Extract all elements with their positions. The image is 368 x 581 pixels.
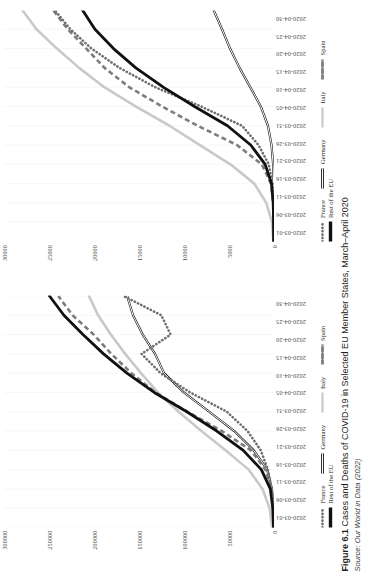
x-tick-label: 2020-04-15 [276, 69, 306, 76]
x-tick-label: 2020-03-06 [276, 497, 306, 504]
legend-swatch-icon [319, 453, 326, 473]
x-tick-label: 2020-04-05 [276, 390, 306, 397]
x-tick: 2020-03-16 [274, 170, 318, 188]
legend-label: Germany [319, 425, 326, 450]
chart-deaths-body: 050001000015000200002500030000 [4, 10, 274, 286]
x-tick-label: 2020-03-26 [276, 426, 306, 433]
x-tick-label: 2020-03-01 [276, 229, 306, 236]
legend-item-spain[interactable]: Spain [319, 40, 326, 79]
x-tick-label: 2020-03-31 [276, 122, 306, 129]
legend-swatch-icon [319, 222, 326, 242]
x-tick: 2020-03-21 [274, 152, 318, 170]
series-line [127, 296, 274, 528]
legend-item-germany[interactable]: Germany [319, 139, 326, 188]
x-tick: 2020-03-26 [274, 420, 318, 438]
x-tick-label: 2020-03-21 [276, 443, 306, 450]
legend-item-spain[interactable]: Spain [319, 325, 326, 364]
series-line [50, 296, 274, 528]
series-line [55, 10, 274, 242]
chart-deaths-y-axis: 050001000015000200002500030000 [4, 242, 274, 286]
legend-label: France [319, 485, 326, 503]
figure-number: Figure 6.1 [340, 528, 350, 571]
legend-swatch-icon [319, 168, 326, 188]
legend-label: France [319, 200, 326, 218]
x-tick-label: 2020-03-26 [276, 140, 306, 147]
rotated-figure-page: 050000100000150000200000250000300000 202… [0, 0, 368, 581]
legend-label: Rest of the EU [327, 178, 334, 217]
x-tick-label: 2020-04-10 [276, 87, 306, 94]
x-tick-label: 2020-04-15 [276, 354, 306, 361]
plot-svg [4, 296, 274, 528]
x-tick: 2020-03-11 [274, 474, 318, 492]
legend-swatch-icon [327, 507, 334, 527]
legend-item-italy[interactable]: Italy [319, 376, 326, 412]
x-tick-label: 2020-03-11 [276, 479, 306, 486]
y-tick-label: 50000 [225, 530, 232, 546]
chart-deaths-canvas [4, 10, 274, 242]
x-tick: 2020-04-20 [274, 331, 318, 349]
x-tick-label: 2020-03-31 [276, 408, 306, 415]
legend-item-rest-of-the-eu[interactable]: Rest of the EU [327, 178, 334, 241]
x-tick-label: 2020-03-06 [276, 211, 306, 218]
figure-caption: Figure 6.1 Cases and Deaths of COVID-19 … [334, 10, 362, 571]
x-tick: 2020-04-20 [274, 46, 318, 64]
x-tick-label: 2020-03-16 [276, 461, 306, 468]
x-tick-label: 2020-04-20 [276, 336, 306, 343]
legend-label: Spain [319, 325, 326, 340]
legend-item-france[interactable]: France [319, 200, 326, 242]
x-tick-label: 2020-04-30 [276, 301, 306, 308]
x-tick: 2020-04-10 [274, 81, 318, 99]
y-tick-label: 200000 [90, 530, 97, 549]
x-tick: 2020-04-05 [274, 99, 318, 117]
chart-deaths-legend: FranceGermanyItalySpainRest of the EU [318, 10, 334, 242]
legend-label: Italy [319, 376, 326, 388]
series-line [58, 296, 273, 528]
x-tick: 2020-03-21 [274, 438, 318, 456]
x-tick: 2020-04-10 [274, 367, 318, 385]
y-tick-label: 150000 [135, 530, 142, 549]
x-tick-label: 2020-04-25 [276, 319, 306, 326]
legend-swatch-icon [319, 507, 326, 527]
chart-cases-plot [4, 296, 274, 528]
x-tick: 2020-04-15 [274, 63, 318, 81]
series-line [127, 296, 274, 528]
x-tick: 2020-04-25 [274, 313, 318, 331]
x-tick-label: 2020-04-25 [276, 33, 306, 40]
charts-row: 050000100000150000200000250000300000 202… [4, 10, 334, 571]
x-tick-label: 2020-04-20 [276, 51, 306, 58]
legend-item-germany[interactable]: Germany [319, 425, 326, 474]
legend-item-france[interactable]: France [319, 485, 326, 527]
x-tick: 2020-03-06 [274, 206, 318, 224]
x-tick: 2020-04-05 [274, 385, 318, 403]
x-tick: 2020-03-16 [274, 456, 318, 474]
legend-label: Germany [319, 139, 326, 164]
figure-page: 050000100000150000200000250000300000 202… [0, 0, 368, 581]
legend-item-italy[interactable]: Italy [319, 91, 326, 127]
x-tick: 2020-03-01 [274, 224, 318, 242]
y-tick-label: 5000 [225, 245, 232, 258]
legend-item-rest-of-the-eu[interactable]: Rest of the EU [327, 464, 334, 527]
chart-cases-y-axis: 050000100000150000200000250000300000 [4, 527, 274, 571]
x-tick-label: 2020-04-30 [276, 15, 306, 22]
y-tick-label: 300000 [1, 530, 8, 549]
series-line [124, 296, 274, 528]
chart-deaths-plot [4, 10, 274, 242]
x-tick-label: 2020-03-01 [276, 515, 306, 522]
x-tick: 2020-03-26 [274, 135, 318, 153]
x-tick: 2020-03-06 [274, 491, 318, 509]
chart-cases-x-axis: 2020-03-012020-03-062020-03-112020-03-16… [274, 296, 318, 528]
x-tick: 2020-03-31 [274, 402, 318, 420]
series-line [82, 10, 273, 242]
x-tick: 2020-04-30 [274, 10, 318, 28]
x-tick: 2020-03-31 [274, 117, 318, 135]
x-tick-label: 2020-04-10 [276, 372, 306, 379]
x-tick: 2020-03-11 [274, 188, 318, 206]
figure-source: Source: Our World in Data (2022) [351, 10, 362, 571]
y-tick-label: 0 [270, 245, 277, 248]
chart-cases: 050000100000150000200000250000300000 202… [4, 296, 334, 572]
series-line [214, 10, 274, 242]
plot-svg [4, 10, 274, 242]
legend-label: Rest of the EU [327, 464, 334, 503]
y-tick-label: 20000 [90, 245, 97, 261]
y-tick-label: 0 [270, 530, 277, 533]
